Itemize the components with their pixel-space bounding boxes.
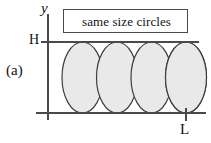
y-axis-label: y [41, 1, 48, 16]
panel-label: (a) [6, 63, 23, 78]
callout-label: same size circles [64, 10, 189, 34]
circle-5 [166, 42, 207, 113]
circle-series [62, 42, 207, 113]
l-tick-label: L [180, 122, 189, 137]
h-level-label: H [29, 33, 39, 47]
callout-box: same size circles [63, 9, 188, 33]
figure-panel-a: same size circles (a) y H L [0, 0, 211, 143]
